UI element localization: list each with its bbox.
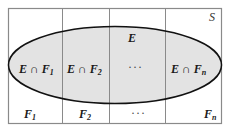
intersection-label-n: E ∩ Fn — [170, 62, 207, 77]
event-e-label: E — [127, 31, 136, 45]
intersection-label-2: E ∩ F2 — [66, 62, 102, 77]
partition-ellipsis: ··· — [131, 106, 146, 120]
intersection-label-1: E ∩ F1 — [18, 62, 54, 77]
partition-diagram: S E E ∩ F1 E ∩ F2 ··· E ∩ Fn F1 F2 ··· F… — [0, 0, 229, 139]
sample-space-label: S — [209, 10, 215, 24]
intersection-ellipsis: ··· — [128, 60, 143, 74]
